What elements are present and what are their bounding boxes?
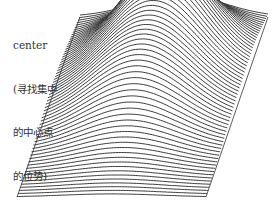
annotation-line-2: (寻找集中 (13, 82, 57, 97)
annotation-line-1: center (13, 38, 57, 53)
annotation-line-3: 的中心点 (13, 125, 57, 140)
annotation-line-4: 的位势) (13, 169, 57, 184)
center-annotation: center (寻找集中 的中心点 的位势) (13, 9, 57, 198)
